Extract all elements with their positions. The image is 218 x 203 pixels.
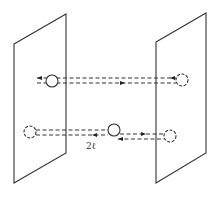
lower-middle-atom xyxy=(108,124,120,136)
arrow-left-icon xyxy=(170,76,175,80)
arrow-left-icon xyxy=(92,133,97,137)
left-plane xyxy=(14,14,66,183)
upper-right-atom xyxy=(176,74,188,86)
lower-right-atom xyxy=(164,130,176,142)
lower-right-beam-pair xyxy=(118,132,164,141)
distance-label: 2ℓ xyxy=(86,141,96,151)
right-plane xyxy=(156,13,206,183)
arrow-left-icon xyxy=(37,76,42,80)
arrow-left-icon xyxy=(118,137,123,141)
lower-left-atom xyxy=(24,126,36,138)
lower-left-beam-pair xyxy=(36,130,108,137)
diagram-canvas: 2ℓ xyxy=(0,0,218,203)
upper-left-atom xyxy=(46,75,58,87)
arrow-right-icon xyxy=(120,81,125,85)
arrow-right-icon xyxy=(141,132,146,136)
